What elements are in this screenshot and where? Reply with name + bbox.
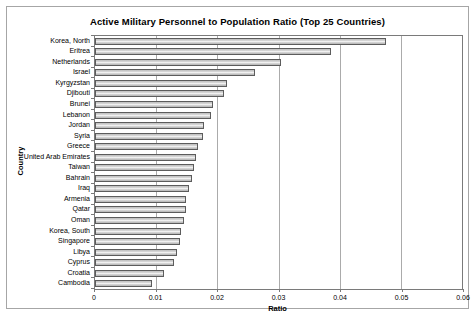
bar-row	[95, 36, 462, 47]
bar-row	[95, 247, 462, 258]
bar-row	[95, 173, 462, 184]
bar-row	[95, 278, 462, 289]
bar-row	[95, 226, 462, 237]
x-tick-mark	[94, 289, 95, 292]
y-axis-label: Cyprus	[9, 258, 90, 265]
x-axis-tick-labels: 00.010.020.030.040.050.06	[94, 294, 463, 303]
bar-row	[95, 141, 462, 152]
x-axis-tick-label: 0.02	[202, 294, 232, 301]
bar-row	[95, 268, 462, 279]
bar-Bahrain	[95, 175, 192, 182]
bar-row	[95, 99, 462, 110]
bar-row	[95, 131, 462, 142]
plot-area	[94, 35, 463, 290]
x-axis-ticks	[94, 289, 463, 293]
y-axis-label: Syria	[9, 132, 90, 139]
bar-Oman	[95, 217, 184, 224]
x-axis-title: Ratio	[94, 304, 461, 313]
x-axis-tick-label: 0.03	[264, 294, 294, 301]
bar-row	[95, 257, 462, 268]
bar-United Arab Emirates	[95, 154, 196, 161]
y-axis-label: Oman	[9, 216, 90, 223]
x-tick-mark	[463, 289, 464, 292]
bar-Greece	[95, 143, 198, 150]
y-axis-label: Kyrgyzstan	[9, 79, 90, 86]
y-axis-label: Lebanon	[9, 111, 90, 118]
bar-Armenia	[95, 196, 186, 203]
bar-Libya	[95, 249, 177, 256]
bar-row	[95, 184, 462, 195]
y-axis-label: Eritrea	[9, 47, 90, 54]
bar-Cyprus	[95, 259, 174, 266]
x-tick-mark	[217, 289, 218, 292]
bar-row	[95, 236, 462, 247]
bar-Israel	[95, 69, 255, 76]
bar-row	[95, 110, 462, 121]
y-axis-label: Qatar	[9, 205, 90, 212]
y-axis-label: Jordan	[9, 121, 90, 128]
chart-title: Active Military Personnel to Population …	[7, 16, 468, 27]
bar-row	[95, 205, 462, 216]
bar-Korea, North	[95, 38, 386, 45]
x-tick-mark	[156, 289, 157, 292]
bar-Iraq	[95, 185, 189, 192]
bar-row	[95, 215, 462, 226]
x-tick-mark	[340, 289, 341, 292]
y-axis-label: Singapore	[9, 237, 90, 244]
bar-row	[95, 120, 462, 131]
bar-Lebanon	[95, 112, 211, 119]
bar-Djibouti	[95, 90, 224, 97]
y-axis-label: Netherlands	[9, 58, 90, 65]
y-axis-label: Djibouti	[9, 89, 90, 96]
bar-Croatia	[95, 270, 164, 277]
y-axis-label: Korea, South	[9, 227, 90, 234]
bar-row	[95, 68, 462, 79]
bar-Kyrgyzstan	[95, 80, 227, 87]
bar-Qatar	[95, 206, 186, 213]
y-axis-label: Libya	[9, 248, 90, 255]
x-axis-tick-label: 0.05	[387, 294, 417, 301]
y-axis-label: Korea, North	[9, 37, 90, 44]
bar-row	[95, 47, 462, 58]
bar-row	[95, 89, 462, 100]
bar-Syria	[95, 133, 203, 140]
y-axis-label: Iraq	[9, 184, 90, 191]
bar-Netherlands	[95, 59, 281, 66]
x-axis-tick-label: 0.04	[325, 294, 355, 301]
y-axis-label: Croatia	[9, 269, 90, 276]
y-axis-label: Brunei	[9, 100, 90, 107]
bar-Cambodia	[95, 280, 152, 287]
bar-row	[95, 194, 462, 205]
bar-Taiwan	[95, 164, 194, 171]
y-axis-label: Cambodia	[9, 279, 90, 286]
bar-row	[95, 57, 462, 68]
x-tick-mark	[279, 289, 280, 292]
bar-Brunei	[95, 101, 213, 108]
y-axis-label: Armenia	[9, 195, 90, 202]
bar-Eritrea	[95, 48, 331, 55]
bar-row	[95, 78, 462, 89]
x-axis-tick-label: 0.06	[448, 294, 476, 301]
bar-row	[95, 152, 462, 163]
x-axis-tick-label: 0	[79, 294, 109, 301]
chart-frame: Active Military Personnel to Population …	[6, 6, 469, 309]
y-axis-label: Israel	[9, 68, 90, 75]
bar-Singapore	[95, 238, 180, 245]
bar-Korea, South	[95, 228, 181, 235]
y-axis-title: Country	[16, 147, 25, 176]
x-axis-tick-label: 0.01	[141, 294, 171, 301]
x-tick-mark	[402, 289, 403, 292]
bar-row	[95, 163, 462, 174]
bar-Jordan	[95, 122, 204, 129]
